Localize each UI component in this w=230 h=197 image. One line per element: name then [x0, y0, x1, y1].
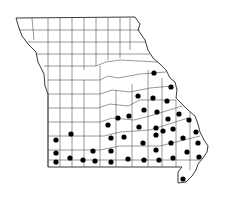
county-dot	[53, 137, 58, 142]
county-dot	[164, 98, 169, 103]
county-dot	[125, 156, 130, 161]
county-dot	[90, 148, 95, 153]
county-dot	[136, 124, 141, 129]
county-dot	[141, 107, 146, 112]
county-dot	[108, 135, 113, 140]
county-dot	[108, 159, 113, 164]
missouri-county-map	[0, 0, 230, 197]
county-dot	[126, 113, 131, 118]
county-dot	[121, 134, 126, 139]
county-dot	[150, 95, 155, 100]
county-dot	[68, 131, 73, 136]
county-dot	[176, 111, 181, 116]
county-dot	[153, 147, 158, 152]
county-dot	[67, 155, 72, 160]
county-dot	[141, 157, 146, 162]
county-dot	[151, 70, 156, 75]
county-dot	[160, 128, 165, 133]
county-dot	[153, 125, 158, 130]
county-dot	[195, 140, 200, 145]
county-dot	[105, 122, 110, 127]
county-dot	[180, 176, 185, 181]
county-dot	[108, 148, 113, 153]
county-dot	[170, 126, 175, 131]
county-dot	[170, 155, 175, 160]
county-dot	[115, 115, 120, 120]
county-dot	[196, 154, 201, 159]
county-dot	[140, 140, 145, 145]
county-dot	[184, 149, 189, 154]
county-dot	[193, 129, 198, 134]
county-dot	[153, 132, 158, 137]
county-dot	[135, 93, 140, 98]
county-dot	[186, 117, 191, 122]
county-dot	[168, 84, 173, 89]
county-dot	[168, 140, 173, 145]
county-dot	[156, 157, 161, 162]
county-dot	[154, 109, 159, 114]
county-dot	[53, 159, 58, 164]
county-dot	[165, 116, 170, 121]
county-dot	[180, 135, 185, 140]
county-dot	[92, 158, 97, 163]
county-dot	[53, 150, 58, 155]
county-dot	[80, 157, 85, 162]
